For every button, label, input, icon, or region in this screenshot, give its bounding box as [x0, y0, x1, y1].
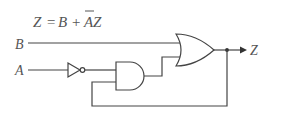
not-gate-triangle: [68, 63, 80, 77]
equation-lhs: Z: [33, 14, 42, 30]
output-z-label: Z: [250, 43, 258, 58]
output-arrow-icon: [240, 47, 247, 54]
equation-term-b: B: [58, 14, 67, 30]
or-gate: [176, 34, 214, 66]
and-gate: [116, 62, 144, 90]
logic-circuit-diagram: Z = B + A Z B A Z: [0, 0, 281, 121]
boolean-equation: Z = B + A Z: [33, 11, 102, 30]
equation-equals: =: [46, 14, 56, 30]
input-a-label: A: [14, 63, 24, 78]
input-b-label: B: [15, 37, 24, 52]
not-gate-bubble: [80, 68, 85, 73]
equation-term-z: Z: [93, 14, 102, 30]
not-gate: [68, 63, 85, 77]
wire-feedback-loop: [92, 50, 227, 106]
circuit-svg: Z = B + A Z B A Z: [0, 0, 281, 121]
equation-plus: +: [71, 14, 81, 30]
